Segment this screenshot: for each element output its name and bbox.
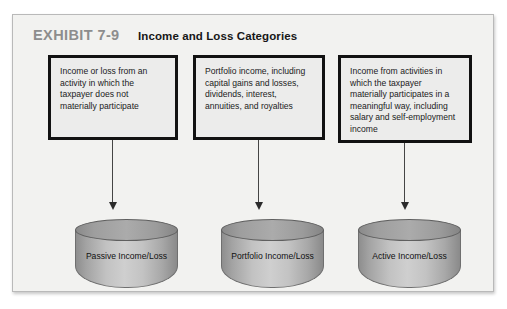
- cylinder-top-ellipse: [75, 219, 178, 241]
- arrow-down-icon-passive: [107, 140, 119, 212]
- exhibit-number: EXHIBIT 7-9: [33, 27, 120, 43]
- cylinder-label-portfolio: Portfolio Income/Loss: [221, 251, 324, 261]
- arrow-stem: [404, 143, 405, 204]
- arrow-head: [255, 202, 263, 210]
- page-title: Income and Loss Categories: [138, 30, 297, 42]
- exhibit-header: EXHIBIT 7-9 Income and Loss Categories: [33, 26, 297, 44]
- arrow-stem: [258, 140, 259, 204]
- cylinder-top-ellipse: [358, 219, 461, 241]
- arrow-down-icon-active: [399, 143, 411, 212]
- cylinder-label-active: Active Income/Loss: [358, 251, 461, 261]
- description-box-passive: Income or loss from an activity in which…: [48, 55, 178, 140]
- arrow-down-icon-portfolio: [253, 140, 265, 212]
- arrow-head: [109, 202, 117, 210]
- cylinder-passive: Passive Income/Loss: [75, 219, 178, 294]
- cylinder-active: Active Income/Loss: [358, 219, 461, 294]
- exhibit-frame: EXHIBIT 7-9 Income and Loss Categories I…: [12, 14, 494, 292]
- cylinder-label-passive: Passive Income/Loss: [75, 251, 178, 261]
- arrow-stem: [112, 140, 113, 204]
- description-box-portfolio: Portfolio income, including capital gain…: [193, 55, 325, 140]
- description-box-active: Income from activities in which the taxp…: [338, 55, 472, 143]
- cylinder-portfolio: Portfolio Income/Loss: [221, 219, 324, 294]
- cylinder-top-ellipse: [221, 219, 324, 241]
- arrow-head: [401, 202, 409, 210]
